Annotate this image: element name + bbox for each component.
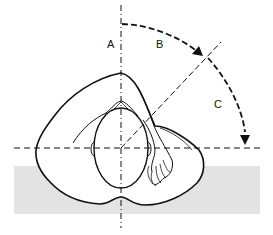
rotation-arc-c (208, 58, 245, 132)
arrowhead-b (192, 46, 203, 56)
arrowhead-c (240, 135, 250, 145)
label-c: C (214, 98, 222, 110)
label-b: B (156, 38, 163, 50)
diagram-svg (0, 0, 273, 235)
diagram-figure: A B C (0, 0, 273, 235)
label-a: A (107, 38, 114, 50)
